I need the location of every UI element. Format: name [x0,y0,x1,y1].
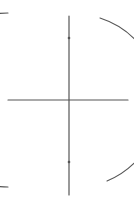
left-arc [0,13,8,187]
perpendicular-bisector-diagram [0,0,134,207]
lower-intersection-point [68,161,71,164]
upper-intersection-point [68,37,71,40]
